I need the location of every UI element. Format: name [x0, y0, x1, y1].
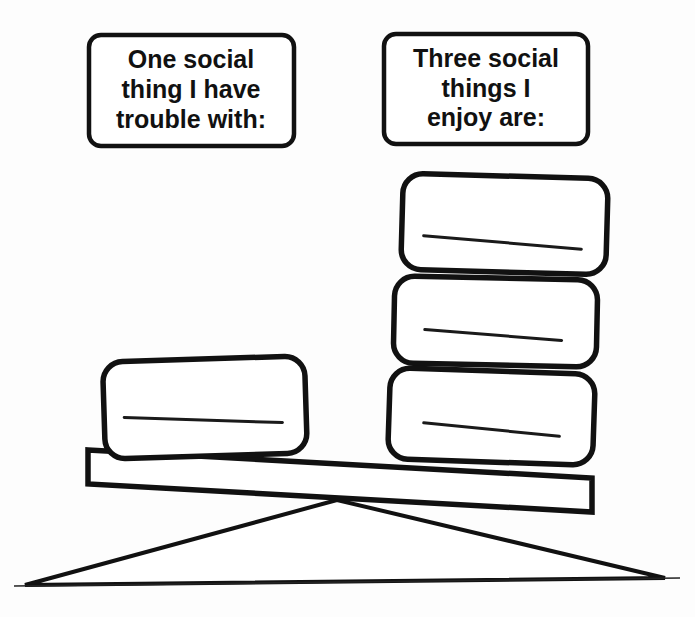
answer-box-right-3-outline[interactable] — [388, 368, 596, 466]
answer-box-left-1-outline[interactable] — [102, 356, 307, 459]
prompt-box-left-line2: thing I have — [122, 75, 261, 103]
prompt-box-right-line3: enjoy are: — [427, 103, 545, 131]
prompt-box-right-line2: things I — [442, 74, 531, 102]
worksheet-canvas: One social thing I have trouble with: Th… — [0, 0, 695, 617]
prompt-box-left-line1: One social — [128, 45, 254, 73]
answer-box-right-3[interactable] — [388, 368, 596, 466]
prompt-box-right: Three social things I enjoy are: — [384, 34, 588, 144]
answer-box-left-1[interactable] — [102, 356, 307, 459]
prompt-box-left-line3: trouble with: — [116, 105, 266, 133]
answer-box-right-1[interactable] — [401, 173, 609, 275]
prompt-box-left: One social thing I have trouble with: — [89, 35, 294, 146]
answer-box-right-2-outline[interactable] — [393, 276, 598, 367]
prompt-box-right-line1: Three social — [413, 44, 559, 72]
balance-scale-illustration: One social thing I have trouble with: Th… — [0, 0, 695, 617]
answer-box-right-2[interactable] — [393, 276, 598, 367]
answer-box-right-1-outline[interactable] — [401, 173, 609, 275]
